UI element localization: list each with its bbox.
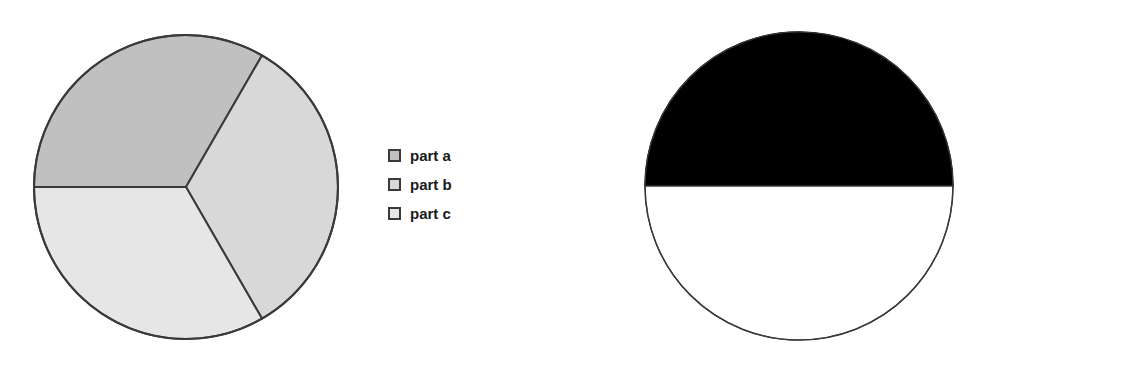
legend-item-part-a: part a <box>388 141 452 170</box>
legend-item-part-b: part b <box>388 170 452 199</box>
legend-left: part a part b part c <box>388 141 452 228</box>
legend-item-part-c: part c <box>388 199 452 228</box>
legend-swatch-icon <box>388 178 401 191</box>
legend-label: part c <box>410 205 451 222</box>
legend-label: part b <box>410 176 452 193</box>
pie-chart-right-block: part a part b <box>600 0 1121 366</box>
pie-chart-left-block: part a part b part c <box>0 0 520 366</box>
pie-charts-figure: part a part b part c part a <box>0 0 1121 366</box>
legend-label: part a <box>410 147 451 164</box>
pie-chart-right-graphic <box>600 0 1121 366</box>
pie-slice-part-b <box>645 186 953 340</box>
legend-swatch-icon <box>388 207 401 220</box>
legend-swatch-icon <box>388 149 401 162</box>
pie-slice-part-a <box>645 32 953 186</box>
